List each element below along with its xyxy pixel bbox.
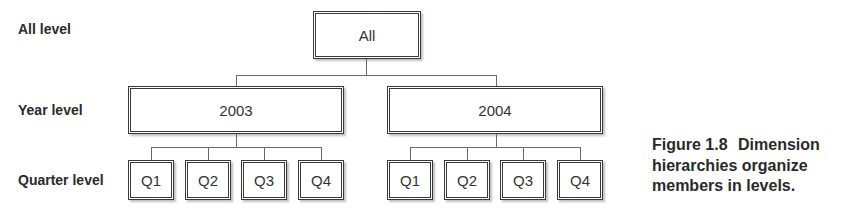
connector-2004-quarters-horizontal bbox=[410, 147, 581, 148]
caption-title-start: Dimension bbox=[738, 136, 820, 153]
connector-2003-down bbox=[236, 134, 237, 147]
node-year-2003: 2003 bbox=[128, 86, 344, 134]
node-2003-q1: Q1 bbox=[128, 160, 174, 200]
year-level-label: Year level bbox=[18, 102, 83, 118]
node-2003-q2: Q2 bbox=[185, 160, 231, 200]
node-all-label: All bbox=[359, 27, 376, 44]
node-2004-q1: Q1 bbox=[387, 160, 433, 200]
connector-2003-q1 bbox=[151, 147, 152, 160]
connector-root-down bbox=[366, 59, 367, 75]
connector-to-2004 bbox=[496, 75, 497, 86]
connector-2004-q3 bbox=[523, 147, 524, 160]
node-2004-q4: Q4 bbox=[557, 160, 603, 200]
figure-number: Figure 1.8 bbox=[652, 136, 728, 153]
connector-2003-q3 bbox=[264, 147, 265, 160]
node-year-2004-label: 2004 bbox=[478, 102, 511, 119]
caption-line-2: hierarchies organize bbox=[652, 156, 820, 177]
caption-line-3: members in levels. bbox=[652, 176, 820, 197]
node-2004-q1-label: Q1 bbox=[400, 172, 420, 189]
node-2004-q4-label: Q4 bbox=[570, 172, 590, 189]
connector-2003-q2 bbox=[208, 147, 209, 160]
node-2003-q4: Q4 bbox=[298, 160, 344, 200]
node-all: All bbox=[313, 11, 421, 59]
all-level-label: All level bbox=[18, 21, 71, 37]
connector-2003-q4 bbox=[321, 147, 322, 160]
figure-caption: Figure 1.8 Dimension hierarchies organiz… bbox=[652, 135, 820, 197]
quarter-level-label: Quarter level bbox=[18, 172, 104, 188]
node-2003-q3: Q3 bbox=[241, 160, 287, 200]
node-2004-q3: Q3 bbox=[500, 160, 546, 200]
node-2003-q2-label: Q2 bbox=[198, 172, 218, 189]
connector-to-2003 bbox=[236, 75, 237, 86]
connector-2004-q4 bbox=[580, 147, 581, 160]
node-year-2004: 2004 bbox=[387, 86, 603, 134]
caption-line-1: Figure 1.8 Dimension bbox=[652, 135, 820, 156]
node-2004-q2: Q2 bbox=[444, 160, 490, 200]
connector-2004-down bbox=[496, 134, 497, 147]
connector-2004-q2 bbox=[467, 147, 468, 160]
node-2003-q1-label: Q1 bbox=[141, 172, 161, 189]
connector-2003-quarters-horizontal bbox=[151, 147, 322, 148]
connector-years-horizontal bbox=[236, 75, 497, 76]
node-2004-q2-label: Q2 bbox=[457, 172, 477, 189]
node-2003-q4-label: Q4 bbox=[311, 172, 331, 189]
connector-2004-q1 bbox=[410, 147, 411, 160]
node-year-2003-label: 2003 bbox=[219, 102, 252, 119]
node-2003-q3-label: Q3 bbox=[254, 172, 274, 189]
node-2004-q3-label: Q3 bbox=[513, 172, 533, 189]
